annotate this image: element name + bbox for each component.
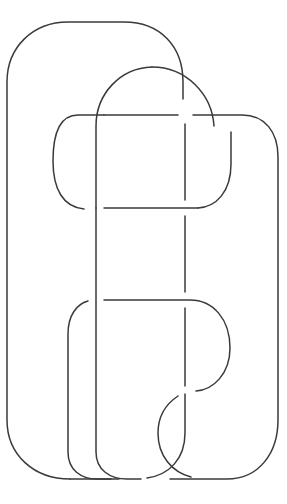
- inner-loop-top-edge-right: [170, 115, 278, 479]
- lower-horizontal: [104, 300, 230, 391]
- middle-loop-top-left-arc: [96, 67, 152, 208]
- knot-strand-group: [7, 22, 278, 479]
- outer-loop-strand: [7, 22, 183, 479]
- middle-rail-left: [96, 208, 141, 479]
- middle-loop-right-upper: [198, 132, 231, 208]
- knot-diagram-canvas: Knot diagram: [0, 0, 287, 504]
- lower-left-hook: [68, 301, 111, 479]
